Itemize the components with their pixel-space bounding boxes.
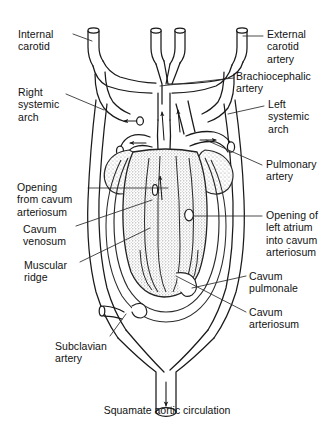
carotid-arch-network: [93, 61, 243, 120]
label-cavum-arteriosum: Cavum arteriosum: [249, 306, 299, 331]
opening-from-cavum-arteriosum: [152, 185, 157, 196]
label-cavum-pulmonale: Cavum pulmonale: [249, 270, 298, 295]
label-opening-of-left-atrium: Opening of left atrium into cavum arteri…: [266, 209, 318, 258]
label-right-systemic-arch: Right systemic arch: [18, 86, 59, 123]
figure-root: Internal carotid Right systemic arch Ope…: [0, 0, 334, 427]
label-muscular-ridge: Muscular ridge: [24, 259, 67, 284]
heart-ventricle: [104, 149, 233, 322]
label-subclavian-artery: Subclavian artery: [55, 340, 107, 365]
leader-left-systemic-arch: [228, 106, 264, 114]
opening-of-left-atrium: [185, 209, 194, 221]
figure-caption: Squamate aortic circulation: [0, 404, 334, 417]
pulmonary-outflow: [117, 101, 235, 156]
label-pulmonary-artery: Pulmonary artery: [266, 158, 317, 183]
carotid-stumps: [88, 28, 247, 66]
label-cavum-venosum: Cavum venosum: [23, 223, 66, 248]
label-external-carotid-artery: External carotid artery: [267, 28, 306, 65]
label-internal-carotid: Internal carotid: [18, 28, 53, 53]
label-left-systemic-arch: Left systemic arch: [268, 98, 309, 135]
leader-internal-carotid: [73, 34, 92, 41]
label-opening-from-cavum-arteriosum: Opening from cavum arteriosum: [17, 181, 72, 218]
dorsal-aorta-group: [99, 303, 214, 416]
label-brachiocephalic-artery: Brachiocephalic artery: [236, 70, 311, 95]
